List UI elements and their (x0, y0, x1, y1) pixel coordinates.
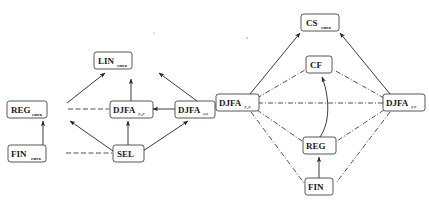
node-reg-right[interactable]: REG (303, 137, 336, 154)
node-djfa-right2-subscript: ≠≠ (411, 105, 417, 110)
right-inclusion-diagram: CS cnvx CF DJFA ≠,≠ DJFA ≠≠ REG FIN (216, 14, 425, 195)
node-djfa-right2-label: DJFA (386, 98, 409, 108)
edge-djfa-left-fin-dashdot (251, 112, 304, 183)
node-fin-right-label: FIN (308, 182, 324, 192)
node-cs-cnvx-subscript: cnvx (321, 25, 332, 30)
edge-sel-to-reg (70, 121, 113, 151)
node-cf-label: CF (310, 60, 322, 70)
node-djfa-right2[interactable]: DJFA ≠≠ (383, 94, 425, 111)
edge-djfa-right-cf-dashdot (334, 70, 384, 98)
node-sel-label: SEL (117, 149, 134, 159)
node-cs-cnvx-label: CS (306, 18, 318, 28)
edge-reg-to-cf-curved (320, 77, 328, 137)
node-cs-cnvx[interactable]: CS cnvx (301, 14, 339, 31)
edge-djfa-right-fin-dashdot (336, 112, 390, 183)
node-djfa-mid[interactable]: DJFA ≠,≠ (110, 101, 153, 118)
node-reg-right-label: REG (306, 141, 326, 151)
node-fin-cnvx[interactable]: FIN cnvx (8, 145, 46, 162)
node-lin-cnvx-subscript: cnvx (117, 63, 128, 68)
edge-djfa-left-to-cs (250, 33, 300, 94)
inclusion-diagram-figure: LIN cnvx REG cnvx DJFA ≠,≠ DJFA ≠≠ FIN c… (0, 0, 429, 207)
node-djfa-right-subscript: ≠≠ (203, 112, 209, 117)
node-fin-cnvx-subscript: cnvx (31, 156, 42, 161)
node-fin-right[interactable]: FIN (305, 178, 333, 195)
node-djfa-left-subscript: ≠,≠ (244, 105, 251, 110)
left-inclusion-diagram: LIN cnvx REG cnvx DJFA ≠,≠ DJFA ≠≠ FIN c… (7, 52, 215, 162)
node-cf[interactable]: CF (306, 56, 332, 73)
node-reg-cnvx[interactable]: REG cnvx (7, 101, 47, 118)
node-reg-cnvx-label: REG (11, 105, 31, 115)
paper-speck (153, 32, 154, 33)
edge-djfa-left-reg-dashdot (257, 110, 302, 141)
paper-speck (246, 37, 248, 39)
node-lin-cnvx-label: LIN (98, 56, 115, 66)
node-djfa-right-label: DJFA (178, 105, 201, 115)
edge-djfa-right-to-lin (159, 73, 197, 101)
node-djfa-mid-subscript: ≠,≠ (138, 112, 145, 117)
edge-sel-to-djfa-right (143, 121, 188, 151)
node-djfa-right[interactable]: DJFA ≠≠ (175, 101, 215, 118)
node-fin-cnvx-label: FIN (11, 149, 27, 159)
edge-djfa-left-cf-dashdot (257, 70, 305, 98)
node-sel[interactable]: SEL (113, 145, 144, 162)
edge-djfa-right-reg-dashdot (337, 110, 384, 141)
edge-reg-to-lin (67, 73, 105, 103)
node-djfa-left-label: DJFA (219, 98, 242, 108)
node-djfa-left[interactable]: DJFA ≠,≠ (216, 94, 259, 111)
node-reg-cnvx-subscript: cnvx (32, 112, 43, 117)
node-djfa-mid-label: DJFA (113, 105, 136, 115)
edge-djfa-right-to-cs (340, 33, 390, 94)
node-lin-cnvx[interactable]: LIN cnvx (94, 52, 132, 69)
